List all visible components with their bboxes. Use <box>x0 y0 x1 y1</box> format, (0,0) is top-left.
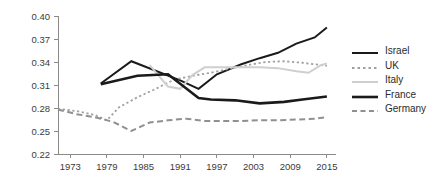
x-tick-label: 1985 <box>133 161 154 172</box>
series-line-israel <box>101 28 327 89</box>
legend-line-solid-lightgray <box>352 74 378 86</box>
chart-legend: IsraelUKItalyFranceGermany <box>352 44 438 117</box>
legend-label: Germany <box>385 103 426 115</box>
legend-item-france[interactable]: France <box>352 88 438 103</box>
y-tick-label: 0.37 <box>32 34 51 45</box>
y-tick-label: 0.31 <box>32 80 51 91</box>
y-tick-label: 0.34 <box>32 57 51 68</box>
x-tick-label: 1991 <box>170 161 191 172</box>
x-tick-label: 1997 <box>206 161 227 172</box>
x-tick-label: 2015 <box>316 161 337 172</box>
y-axis-ticks: 0.220.250.280.310.340.370.40 <box>32 11 59 160</box>
legend-line-solid-dark-thin <box>352 45 378 57</box>
x-tick-label: 2003 <box>243 161 264 172</box>
legend-line-solid-dark-thick <box>352 89 378 101</box>
y-tick-label: 0.25 <box>32 126 51 137</box>
legend-item-italy[interactable]: Italy <box>352 73 438 88</box>
x-tick-label: 1973 <box>60 161 81 172</box>
legend-label: Italy <box>385 74 403 86</box>
series-line-germany <box>58 110 327 131</box>
series-line-italy <box>150 64 327 89</box>
legend-item-uk[interactable]: UK <box>352 59 438 74</box>
data-series-group <box>58 28 327 132</box>
legend-item-israel[interactable]: Israel <box>352 44 438 59</box>
y-tick-label: 0.40 <box>32 11 51 22</box>
legend-line-dashed-gray <box>352 103 378 115</box>
y-tick-label: 0.22 <box>32 149 51 160</box>
x-axis-ticks: 19731979198519911997200320092015 <box>60 154 338 172</box>
x-tick-label: 2009 <box>280 161 301 172</box>
x-tick-label: 1979 <box>96 161 117 172</box>
legend-label: UK <box>385 60 399 72</box>
y-tick-label: 0.28 <box>32 103 51 114</box>
legend-label: France <box>385 89 416 101</box>
legend-label: Israel <box>385 45 409 57</box>
legend-line-dotted-gray <box>352 60 378 72</box>
legend-item-germany[interactable]: Germany <box>352 102 438 117</box>
series-line-france <box>101 74 327 103</box>
line-chart: 0.220.250.280.310.340.370.40 19731979198… <box>0 0 438 184</box>
